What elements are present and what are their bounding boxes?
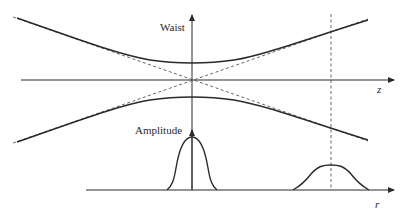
amplitude-label: Amplitude: [135, 125, 182, 136]
r-axis-label: r: [375, 199, 379, 210]
gaussian-beam-diagram: Waist z Amplitude r: [0, 0, 404, 215]
z-axis-label: z: [377, 84, 381, 95]
diagram-canvas: [0, 0, 404, 215]
waist-label: Waist: [160, 22, 185, 33]
